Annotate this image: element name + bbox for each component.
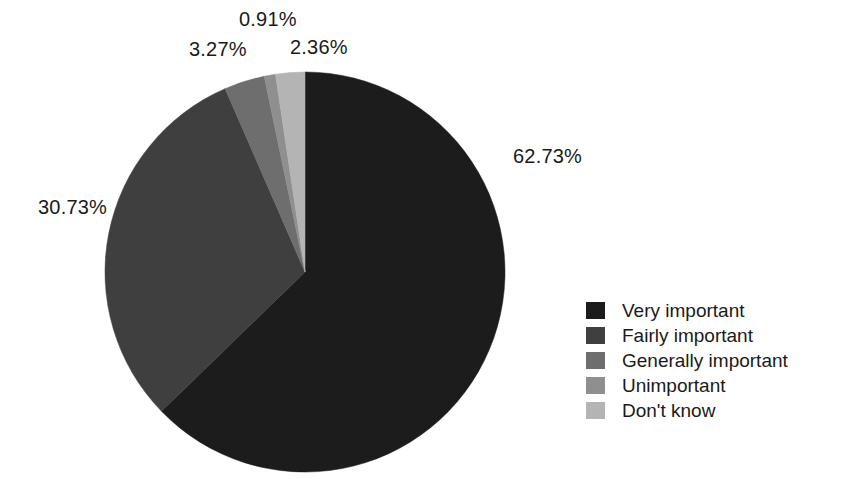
pie-graphic [0,0,845,504]
legend-swatch-icon [586,327,605,344]
legend-item-label: Don't know [622,401,715,420]
chart-legend: Very important Fairly important Generall… [586,298,826,423]
legend-item-fairly-important: Fairly important [586,323,826,348]
slice-value-dont-know: 2.36% [290,36,348,59]
pie-chart: 62.73% 30.73% 3.27% 0.91% 2.36% Very imp… [0,0,845,504]
slice-value-generally-important: 3.27% [189,38,247,61]
legend-swatch-icon [586,402,605,419]
legend-swatch-icon [586,352,605,369]
slice-value-very-important: 62.73% [513,145,582,168]
legend-item-label: Very important [622,301,745,320]
legend-swatch-icon [586,302,605,319]
legend-item-very-important: Very important [586,298,826,323]
legend-item-label: Generally important [622,351,788,370]
legend-item-unimportant: Unimportant [586,373,826,398]
slice-value-fairly-important: 30.73% [38,196,107,219]
legend-item-label: Fairly important [622,326,753,345]
legend-item-generally-important: Generally important [586,348,826,373]
legend-swatch-icon [586,377,605,394]
legend-item-label: Unimportant [622,376,726,395]
slice-value-unimportant: 0.91% [239,8,297,31]
legend-item-dont-know: Don't know [586,398,826,423]
